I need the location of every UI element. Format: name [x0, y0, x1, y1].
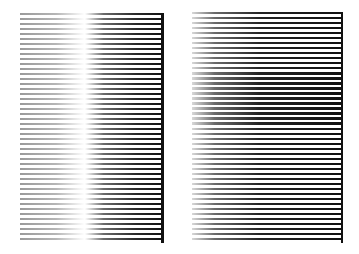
grating-line — [20, 83, 164, 85]
grating-line — [20, 233, 164, 235]
grating-line — [20, 238, 164, 240]
grating-line — [20, 58, 164, 60]
grating-line — [20, 168, 164, 170]
grating-line — [192, 107, 343, 109]
grating-line — [192, 143, 343, 145]
grating-line — [20, 73, 164, 75]
grating-line — [20, 143, 164, 145]
grating-line — [20, 183, 164, 185]
grating-line — [20, 13, 164, 15]
grating-line — [192, 203, 343, 205]
grating-line — [20, 68, 164, 70]
grating-line — [192, 117, 343, 119]
grating-line — [192, 92, 343, 94]
grating-line — [192, 102, 343, 104]
grating-line — [192, 67, 343, 69]
grating-line — [192, 47, 343, 49]
grating-line — [20, 33, 164, 35]
grating-line — [20, 63, 164, 65]
grating-line — [192, 133, 343, 135]
grating-line — [192, 82, 343, 84]
grating-line — [192, 193, 343, 195]
grating-panel-right — [192, 12, 343, 243]
grating-line — [20, 43, 164, 45]
grating-line — [20, 223, 164, 225]
grating-line — [20, 173, 164, 175]
grating-line — [192, 22, 343, 24]
grating-line — [20, 133, 164, 135]
grating-line — [192, 52, 343, 54]
grating-line — [192, 178, 343, 180]
grating-line — [192, 62, 343, 64]
grating-line — [192, 228, 343, 230]
grating-line — [192, 12, 343, 14]
grating-line — [20, 88, 164, 90]
grating-line — [192, 37, 343, 39]
grating-line — [20, 213, 164, 215]
grating-line — [20, 208, 164, 210]
grating-line — [192, 158, 343, 160]
grating-line — [192, 97, 343, 99]
grating-line — [20, 228, 164, 230]
grating-line — [192, 218, 343, 220]
grating-line — [192, 27, 343, 29]
grating-line — [192, 87, 343, 89]
grating-line — [192, 238, 343, 240]
panel-right-edge — [341, 12, 343, 243]
grating-line — [192, 223, 343, 225]
grating-line — [20, 163, 164, 165]
grating-line — [20, 193, 164, 195]
grating-line — [20, 48, 164, 50]
grating-line — [20, 38, 164, 40]
grating-line — [192, 17, 343, 19]
grating-line — [20, 153, 164, 155]
grating-line — [192, 183, 343, 185]
grating-line — [192, 163, 343, 165]
grating-line — [20, 198, 164, 200]
grating-line — [20, 93, 164, 95]
grating-line — [20, 148, 164, 150]
grating-panel-left — [20, 13, 164, 243]
panel-left-edge — [161, 13, 164, 243]
grating-line — [192, 128, 343, 130]
grating-line — [20, 123, 164, 125]
grating-line — [20, 18, 164, 20]
grating-line — [20, 188, 164, 190]
grating-line — [192, 168, 343, 170]
grating-line — [192, 233, 343, 235]
grating-line — [192, 188, 343, 190]
grating-line — [20, 138, 164, 140]
grating-line — [192, 122, 343, 124]
grating-line — [20, 118, 164, 120]
grating-line — [192, 198, 343, 200]
grating-line — [20, 108, 164, 110]
grating-line — [20, 23, 164, 25]
grating-line — [192, 148, 343, 150]
grating-line — [192, 32, 343, 34]
grating-line — [192, 77, 343, 79]
grating-line — [20, 28, 164, 30]
grating-line — [20, 113, 164, 115]
grating-line — [192, 138, 343, 140]
grating-line — [192, 57, 343, 59]
grating-line — [20, 128, 164, 130]
grating-line — [20, 218, 164, 220]
grating-line — [20, 103, 164, 105]
grating-line — [192, 42, 343, 44]
grating-line — [192, 208, 343, 210]
grating-line — [20, 178, 164, 180]
grating-line — [192, 213, 343, 215]
grating-line — [20, 203, 164, 205]
grating-line — [192, 112, 343, 114]
grating-line — [192, 72, 343, 74]
grating-line — [20, 78, 164, 80]
grating-line — [192, 153, 343, 155]
grating-line — [20, 53, 164, 55]
grating-line — [192, 173, 343, 175]
grating-line — [20, 98, 164, 100]
grating-line — [20, 158, 164, 160]
